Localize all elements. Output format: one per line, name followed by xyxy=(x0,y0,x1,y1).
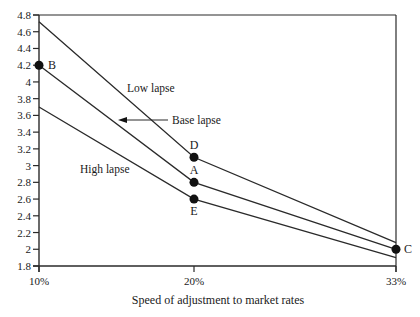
low-lapse-label: Low lapse xyxy=(127,82,175,95)
line-high-lapse xyxy=(39,107,396,258)
x-axis-ticks: 10%20%33% xyxy=(29,266,406,287)
y-tick-label: 3.2 xyxy=(17,143,31,155)
y-tick-label: 2.8 xyxy=(17,176,31,188)
point-c-marker xyxy=(392,245,401,254)
x-tick-label: 20% xyxy=(184,275,204,287)
point-a-marker xyxy=(190,178,199,187)
point-e-label: E xyxy=(190,204,197,218)
annotations: Low lapseBase lapseHigh lapse xyxy=(80,82,221,176)
y-tick-label: 3.6 xyxy=(17,109,31,121)
line-low-lapse xyxy=(39,22,396,243)
series-lines xyxy=(39,22,396,258)
x-tick-label: 10% xyxy=(29,275,49,287)
y-tick-label: 4.4 xyxy=(17,42,31,54)
y-axis-ticks: 1.822.22.42.62.833.23.43.63.844.24.44.64… xyxy=(17,9,39,272)
y-tick-label: 4.8 xyxy=(17,9,31,21)
y-tick-label: 2.4 xyxy=(17,210,31,222)
y-tick-label: 2.2 xyxy=(17,227,31,239)
point-a-label: A xyxy=(190,163,199,177)
y-tick-label: 4 xyxy=(26,76,32,88)
y-tick-label: 3.8 xyxy=(17,93,31,105)
x-axis-title: Speed of adjustment to market rates xyxy=(132,293,305,307)
point-d-label: D xyxy=(190,138,199,152)
y-tick-label: 2.6 xyxy=(17,193,31,205)
arrow-left-icon xyxy=(118,117,127,123)
point-b-marker xyxy=(35,61,44,70)
data-points: BDAEC xyxy=(35,58,413,256)
plot-frame xyxy=(33,15,396,272)
high-lapse-label: High lapse xyxy=(80,163,130,176)
y-tick-label: 4.6 xyxy=(17,26,31,38)
point-d-marker xyxy=(190,153,199,162)
point-b-label: B xyxy=(48,58,56,72)
y-tick-label: 3.4 xyxy=(17,126,31,138)
y-tick-label: 1.8 xyxy=(17,260,31,272)
line-base-lapse xyxy=(39,65,396,249)
base-lapse-label: Base lapse xyxy=(172,114,221,127)
y-tick-label: 4.2 xyxy=(17,59,31,71)
y-tick-label: 2 xyxy=(26,243,32,255)
point-e-marker xyxy=(190,195,199,204)
y-tick-label: 3 xyxy=(26,160,32,172)
x-tick-label: 33% xyxy=(386,275,406,287)
point-c-label: C xyxy=(404,242,412,256)
line-chart: 1.822.22.42.62.833.23.43.63.844.24.44.64… xyxy=(0,0,420,317)
